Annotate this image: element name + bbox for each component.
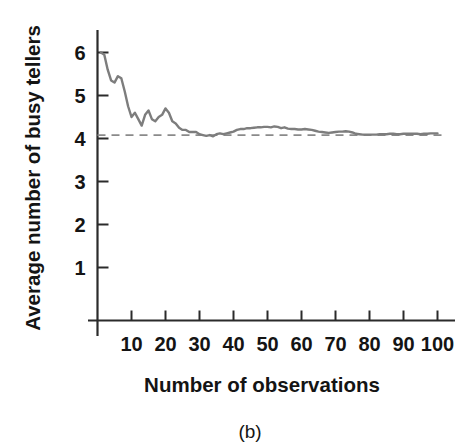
chart-svg: 123456102030405060708090100Average numbe… [0, 0, 463, 448]
x-tick-label-20: 20 [154, 333, 176, 355]
x-tick-label-100: 100 [421, 333, 454, 355]
x-tick-label-30: 30 [188, 333, 210, 355]
x-tick-label-70: 70 [324, 333, 346, 355]
y-tick-label-6: 6 [74, 42, 85, 64]
y-tick-label-4: 4 [74, 128, 86, 150]
x-tick-label-80: 80 [358, 333, 380, 355]
x-tick-label-40: 40 [222, 333, 244, 355]
y-tick-label-5: 5 [74, 85, 85, 107]
y-tick-label-1: 1 [74, 257, 85, 279]
figure-caption: (b) [238, 421, 261, 442]
x-tick-label-60: 60 [290, 333, 312, 355]
series-line-busy-tellers [101, 53, 438, 137]
figure-panel: 123456102030405060708090100Average numbe… [0, 0, 463, 448]
y-tick-label-2: 2 [74, 214, 85, 236]
y-axis-title: Average number of busy tellers [21, 25, 44, 331]
x-tick-label-90: 90 [392, 333, 414, 355]
y-tick-label-3: 3 [74, 171, 85, 193]
x-tick-label-10: 10 [120, 333, 142, 355]
x-axis-title: Number of observations [144, 373, 380, 396]
x-tick-label-50: 50 [256, 333, 278, 355]
